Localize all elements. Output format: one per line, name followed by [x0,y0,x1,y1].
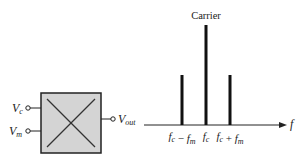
vout-terminal [111,117,115,121]
vc-terminal [26,106,30,110]
frequency-axis-label: f [290,117,295,131]
carrier-line [205,25,208,125]
carrier-label: Carrier [191,10,221,21]
lower-sideband-tick-label: fc − fm [168,130,195,146]
lower-sideband-line [181,75,184,125]
upper-sideband-tick-label: fc + fm [216,130,243,146]
mixer-spectrum-diagram: Vc Vm Vout f Carrier fc − fmfcfc + fm [0,0,305,167]
vm-label: Vm [9,124,22,139]
vout-label: Vout [118,112,136,127]
upper-sideband-line [229,75,232,125]
vc-label: Vc [12,101,23,116]
spectrum-plot: f Carrier fc − fmfcfc + fm [144,10,295,146]
spectrum-tick-labels: fc − fmfcfc + fm [168,130,243,146]
spectrum-lines [181,25,232,125]
mixer-block: Vc Vm Vout [9,93,136,153]
vm-terminal [26,129,30,133]
axis-arrow-icon [279,122,287,128]
carrier-tick-label: fc [203,130,210,144]
